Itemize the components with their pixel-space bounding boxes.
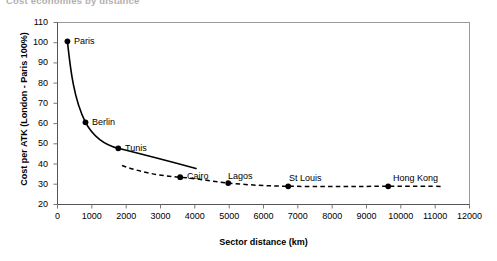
marker-berlin bbox=[83, 119, 89, 125]
data-point-markers bbox=[65, 38, 392, 189]
cropped-page-title: Cost economies by distance bbox=[6, 0, 140, 6]
x-tick-label: 7000 bbox=[288, 212, 308, 221]
point-label-hong-kong: Hong Kong bbox=[393, 174, 438, 183]
y-tick-label: 30 bbox=[18, 180, 48, 189]
y-tick-label: 110 bbox=[18, 18, 48, 27]
x-tick-marks bbox=[58, 205, 470, 209]
marker-cairo bbox=[177, 174, 183, 180]
x-tick-label: 12000 bbox=[457, 212, 482, 221]
point-label-paris: Paris bbox=[74, 37, 95, 46]
x-tick-label: 4000 bbox=[185, 212, 205, 221]
marker-st-louis bbox=[285, 183, 291, 189]
point-label-lagos: Lagos bbox=[228, 172, 253, 181]
marker-tunis bbox=[115, 145, 121, 151]
x-tick-label: 10000 bbox=[388, 212, 413, 221]
point-label-tunis: Tunis bbox=[125, 144, 147, 153]
x-tick-label: 0 bbox=[55, 212, 60, 221]
y-tick-marks bbox=[54, 23, 58, 205]
point-label-cairo: Cairo bbox=[187, 172, 209, 181]
x-tick-label: 5000 bbox=[219, 212, 239, 221]
y-tick-label: 20 bbox=[18, 200, 48, 209]
point-label-berlin: Berlin bbox=[92, 118, 115, 127]
marker-paris bbox=[65, 38, 71, 44]
y-tick-label: 50 bbox=[18, 139, 48, 148]
y-tick-label: 100 bbox=[18, 38, 48, 47]
x-tick-label: 2000 bbox=[116, 212, 136, 221]
x-axis-title: Sector distance (km) bbox=[57, 237, 470, 247]
x-tick-label: 6000 bbox=[253, 212, 273, 221]
marker-lagos bbox=[225, 180, 231, 186]
x-tick-label: 8000 bbox=[322, 212, 342, 221]
x-tick-label: 3000 bbox=[150, 212, 170, 221]
chart-figure: Cost economies by distance bbox=[0, 0, 497, 261]
x-tick-label: 9000 bbox=[356, 212, 376, 221]
x-tick-label: 1000 bbox=[82, 212, 102, 221]
y-tick-label: 60 bbox=[18, 119, 48, 128]
x-tick-label: 11000 bbox=[423, 212, 447, 221]
y-tick-label: 70 bbox=[18, 99, 48, 108]
point-label-st-louis: St Louis bbox=[289, 174, 322, 183]
y-tick-label: 40 bbox=[18, 160, 48, 169]
y-tick-label: 90 bbox=[18, 58, 48, 67]
marker-hong-kong bbox=[385, 183, 391, 189]
y-tick-label: 80 bbox=[18, 79, 48, 88]
